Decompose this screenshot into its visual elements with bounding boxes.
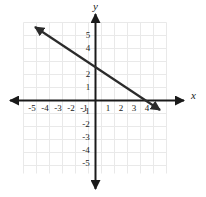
x-tick-label-3: 3 xyxy=(130,104,138,113)
x-axis-label: x xyxy=(191,90,196,101)
x-tick-label--3: -3 xyxy=(52,104,64,113)
y-tick-label-2: 2 xyxy=(84,70,92,79)
x-tick-label-4: 4 xyxy=(143,104,151,113)
x-tick-label--5: -5 xyxy=(26,104,38,113)
plotted-line xyxy=(35,27,160,110)
y-tick-label--5: -5 xyxy=(80,159,92,168)
y-tick-label--1: -1 xyxy=(80,107,92,116)
y-axis-label: y xyxy=(93,1,98,12)
x-tick-label--4: -4 xyxy=(39,104,51,113)
y-tick-label--3: -3 xyxy=(80,133,92,142)
coordinate-plane xyxy=(0,0,206,197)
y-tick-label--4: -4 xyxy=(80,146,92,155)
y-tick-label--2: -2 xyxy=(80,120,92,129)
x-tick-label--2: -2 xyxy=(65,104,77,113)
graph-figure: y x -5 -4 -3 -2 -1 1 2 3 4 5 4 2 1 -1 -2… xyxy=(0,0,206,197)
y-tick-label-4: 4 xyxy=(84,44,92,53)
x-tick-label-1: 1 xyxy=(104,104,112,113)
x-tick-label-2: 2 xyxy=(117,104,125,113)
y-tick-label-1: 1 xyxy=(84,83,92,92)
y-tick-label-5: 5 xyxy=(84,31,92,40)
